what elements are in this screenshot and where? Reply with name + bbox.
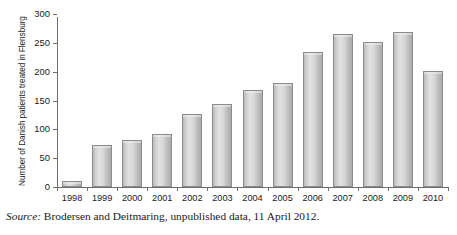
x-tick-label: 2001 [152, 193, 172, 203]
y-tick-label: 50 [40, 152, 50, 163]
source-label: Source: [6, 210, 41, 222]
bar [212, 104, 232, 187]
x-tick [268, 187, 269, 191]
bar [122, 140, 142, 187]
x-tick [87, 187, 88, 191]
x-tick [448, 187, 449, 191]
x-tick [237, 187, 238, 191]
y-tick-label: 0 [45, 181, 50, 192]
x-tick [358, 187, 359, 191]
source-caption: Source: Brodersen and Deitmaring, unpubl… [6, 210, 319, 222]
bar [62, 181, 82, 187]
y-tick: 150 [53, 101, 57, 102]
bar [92, 145, 112, 187]
bar [333, 34, 353, 187]
x-tick [418, 187, 419, 191]
x-tick-label: 2006 [302, 193, 322, 203]
plot-area: 050100150200250300 199819992000200120022… [57, 14, 448, 187]
figure: Number of Danish patients treated in Fle… [0, 0, 457, 235]
bar [393, 32, 413, 187]
x-tick-label: 2005 [272, 193, 292, 203]
bar [303, 52, 323, 187]
x-tick [177, 187, 178, 191]
y-tick-label: 250 [34, 37, 50, 48]
y-tick-label: 300 [34, 8, 50, 19]
x-tick-label: 2009 [393, 193, 413, 203]
x-tick-label: 2002 [182, 193, 202, 203]
x-tick [147, 187, 148, 191]
x-tick-label: 2004 [242, 193, 262, 203]
source-body: Brodersen and Deitmaring, unpublished da… [41, 210, 319, 222]
x-tick [388, 187, 389, 191]
x-tick [298, 187, 299, 191]
bar [363, 42, 383, 187]
x-tick-label: 2007 [332, 193, 352, 203]
y-axis-line [57, 17, 58, 187]
bar [423, 71, 443, 187]
bar [273, 83, 293, 187]
y-tick: 300 [53, 14, 57, 15]
y-tick: 50 [53, 158, 57, 159]
bar [152, 134, 172, 187]
x-tick-label: 2000 [122, 193, 142, 203]
y-tick-label: 200 [34, 66, 50, 77]
x-tick [117, 187, 118, 191]
bar [243, 90, 263, 187]
y-tick: 100 [53, 129, 57, 130]
x-tick [328, 187, 329, 191]
x-tick [57, 187, 58, 191]
y-axis-title: Number of Danish patients treated in Fle… [17, 1, 27, 201]
x-tick [207, 187, 208, 191]
y-tick: 250 [53, 43, 57, 44]
y-tick: 200 [53, 72, 57, 73]
y-tick-label: 150 [34, 95, 50, 106]
x-tick-label: 2010 [423, 193, 443, 203]
x-tick-label: 2008 [363, 193, 383, 203]
x-tick-label: 2003 [212, 193, 232, 203]
bar [182, 114, 202, 187]
x-tick-label: 1999 [92, 193, 112, 203]
y-tick-label: 100 [34, 123, 50, 134]
x-tick-label: 1998 [62, 193, 82, 203]
x-axis-line [57, 187, 448, 188]
